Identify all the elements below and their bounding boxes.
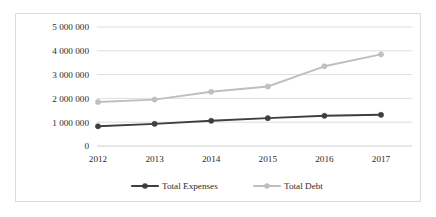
series-line: [98, 54, 381, 102]
series-data-point: [322, 64, 327, 69]
x-axis-tick-label: 2015: [259, 154, 278, 164]
x-axis-tick-label: 2016: [315, 154, 334, 164]
x-axis-tick-label: 2012: [89, 154, 108, 164]
chart-legend: Total ExpensesTotal Debt: [132, 181, 323, 191]
chart-figure: 01 000 0002 000 0003 000 0004 000 0005 0…: [15, 13, 421, 202]
x-axis-tick-labels: 201220132014201520162017: [89, 154, 391, 164]
series-data-point: [95, 99, 100, 104]
series-data-point: [378, 112, 383, 117]
series-data-point: [95, 124, 100, 129]
x-axis-tick-label: 2014: [202, 154, 221, 164]
series-data-point: [378, 52, 383, 57]
y-axis-tick-label: 0: [84, 141, 89, 151]
series-data-point: [209, 118, 214, 123]
legend-swatch-marker: [142, 183, 148, 189]
series-data-point: [265, 84, 270, 89]
series-data-point: [152, 121, 157, 126]
legend-swatch-marker: [264, 183, 270, 189]
series-lines-group: [98, 54, 381, 126]
line-chart-plot: 01 000 0002 000 0003 000 0004 000 0005 0…: [16, 14, 420, 201]
legend-label: Total Expenses: [162, 181, 218, 191]
x-axis-tick-label: 2017: [372, 154, 391, 164]
legend-label: Total Debt: [284, 181, 323, 191]
y-axis-tick-labels: 01 000 0002 000 0003 000 0004 000 0005 0…: [52, 22, 89, 151]
y-axis-tick-label: 3 000 000: [52, 70, 89, 80]
series-data-point: [152, 97, 157, 102]
y-axis-tick-label: 2 000 000: [52, 94, 89, 104]
y-axis-tick-label: 4 000 000: [52, 46, 89, 56]
x-axis-tick-label: 2013: [145, 154, 164, 164]
series-data-point: [322, 113, 327, 118]
series-line: [98, 115, 381, 126]
y-axis-tick-label: 5 000 000: [52, 22, 89, 32]
gridlines-group: [97, 27, 412, 146]
series-data-point: [265, 116, 270, 121]
y-axis-tick-label: 1 000 000: [52, 118, 89, 128]
series-data-point: [209, 89, 214, 94]
